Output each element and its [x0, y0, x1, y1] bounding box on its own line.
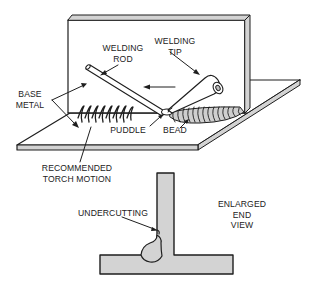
- label-line: ENLARGED: [214, 199, 270, 210]
- label-line: VIEW: [214, 220, 270, 231]
- label-welding-tip: WELDING TIP: [150, 36, 200, 57]
- label-line: WELDING: [98, 43, 148, 54]
- label-welding-rod: WELDING ROD: [98, 43, 148, 64]
- label-line: TIP: [150, 47, 200, 58]
- label-line: PUDDLE: [108, 125, 148, 136]
- label-torch-motion: RECOMMENDED TORCH MOTION: [36, 163, 118, 184]
- label-bead: BEAD: [160, 125, 190, 136]
- label-line: BEAD: [160, 125, 190, 136]
- label-base-metal: BASE METAL: [12, 89, 48, 110]
- label-line: UNDERCUTTING: [74, 208, 152, 219]
- label-line: BASE: [12, 89, 48, 100]
- label-line: RECOMMENDED: [36, 163, 118, 174]
- label-line: METAL: [12, 100, 48, 111]
- label-line: ROD: [98, 54, 148, 65]
- label-line: WELDING: [150, 36, 200, 47]
- vertical-plate: [68, 15, 250, 113]
- label-end-view: ENLARGED END VIEW: [214, 199, 270, 231]
- label-undercutting: UNDERCUTTING: [74, 208, 152, 219]
- label-puddle: PUDDLE: [108, 125, 148, 136]
- label-line: TORCH MOTION: [36, 174, 118, 185]
- label-line: END: [214, 210, 270, 221]
